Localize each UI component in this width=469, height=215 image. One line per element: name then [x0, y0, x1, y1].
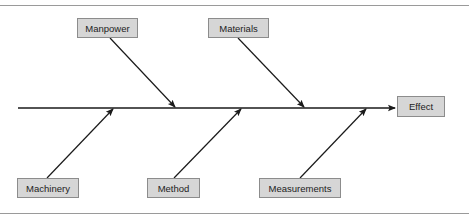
- cause-label-materials: Materials: [219, 23, 258, 34]
- cause-box-machinery: Machinery: [17, 178, 79, 198]
- manpower-bone-arrow: [110, 38, 175, 107]
- cause-box-materials: Materials: [208, 18, 269, 38]
- effect-box: Effect: [397, 96, 445, 117]
- cause-label-machinery: Machinery: [26, 183, 70, 194]
- cause-label-measurements: Measurements: [269, 183, 332, 194]
- cause-box-manpower: Manpower: [77, 18, 138, 38]
- cause-label-method: Method: [158, 183, 190, 194]
- measurements-bone-arrow: [300, 109, 366, 178]
- cause-label-manpower: Manpower: [85, 23, 129, 34]
- effect-label: Effect: [409, 101, 433, 112]
- machinery-bone-arrow: [47, 109, 113, 178]
- materials-bone-arrow: [238, 38, 304, 107]
- method-bone-arrow: [174, 109, 241, 178]
- cause-box-method: Method: [147, 178, 200, 198]
- cause-box-measurements: Measurements: [259, 178, 341, 198]
